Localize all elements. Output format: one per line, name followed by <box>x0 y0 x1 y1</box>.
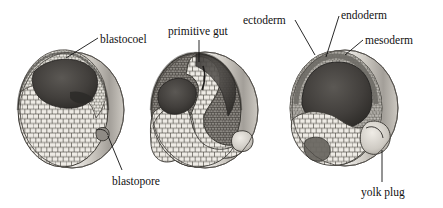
label-blastopore: blastopore <box>112 175 160 187</box>
embryo-blastula <box>18 50 124 168</box>
embryo-late-gastrula <box>290 50 398 166</box>
yolk-plug <box>360 121 390 154</box>
ectoderm-leader <box>295 20 315 55</box>
label-blastocoel: blastocoel <box>100 33 147 45</box>
label-ectoderm: ectoderm <box>243 14 286 26</box>
label-yolk-plug: yolk plug <box>361 186 405 198</box>
label-endoderm: endoderm <box>341 9 387 21</box>
label-mesoderm: mesoderm <box>365 34 413 46</box>
embryo-early-gastrula <box>150 52 258 168</box>
gastrulation-figure: blastocoel primitive gut ectoderm endode… <box>0 0 443 208</box>
label-primitive-gut: primitive gut <box>168 25 228 37</box>
